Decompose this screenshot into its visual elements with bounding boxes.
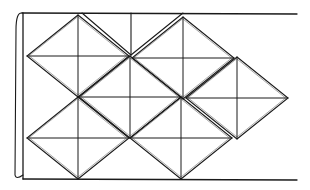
frame-top-edge [22, 13, 297, 14]
frame-curled-edge [15, 13, 23, 178]
diamond-tiles [27, 15, 288, 179]
partial-tile-line [131, 13, 183, 55]
tile-middle-right [186, 57, 288, 139]
partial-tile-line [82, 13, 131, 55]
tile-top-right [132, 17, 234, 99]
partial-top-tile [82, 13, 183, 55]
tile-top-left [27, 15, 129, 97]
frame-bottom-edge [23, 179, 297, 180]
tile-middle-center [79, 56, 181, 138]
diamond-tessellation-diagram [0, 0, 310, 190]
tile-bottom-center [130, 97, 232, 179]
tile-bottom-left [27, 97, 129, 179]
